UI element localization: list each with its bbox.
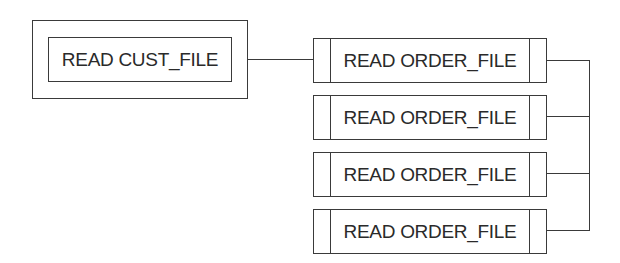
order-module-right-bar (529, 153, 546, 196)
order-module-label: READ ORDER_FILE (331, 153, 529, 196)
cust-module-box[interactable]: READ CUST_FILE (48, 37, 232, 82)
bracket-stub-2 (547, 116, 589, 117)
order-module-2[interactable]: READ ORDER_FILE (313, 95, 547, 140)
order-module-label: READ ORDER_FILE (331, 210, 529, 253)
order-module-right-bar (529, 210, 546, 253)
bracket-stub-4 (547, 230, 590, 231)
order-module-left-bar (314, 39, 331, 82)
order-module-right-bar (529, 96, 546, 139)
order-module-4[interactable]: READ ORDER_FILE (313, 209, 547, 254)
cust-module-label: READ CUST_FILE (62, 49, 218, 71)
order-module-label: READ ORDER_FILE (331, 39, 529, 82)
connector-cust-to-order (248, 59, 313, 60)
order-module-left-bar (314, 96, 331, 139)
order-module-label: READ ORDER_FILE (331, 96, 529, 139)
order-module-1[interactable]: READ ORDER_FILE (313, 38, 547, 83)
bracket-vertical-line (589, 60, 590, 231)
order-module-left-bar (314, 210, 331, 253)
order-module-left-bar (314, 153, 331, 196)
order-module-right-bar (529, 39, 546, 82)
bracket-stub-1 (547, 60, 589, 61)
bracket-stub-3 (547, 173, 589, 174)
order-module-3[interactable]: READ ORDER_FILE (313, 152, 547, 197)
